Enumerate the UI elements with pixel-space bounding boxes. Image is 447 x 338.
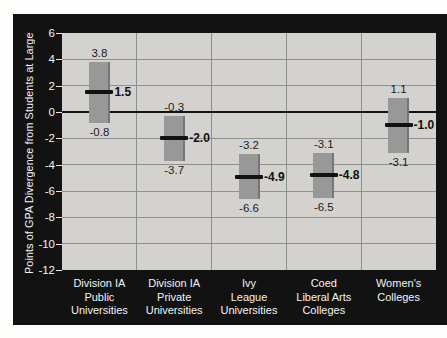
mean-marker <box>160 136 188 140</box>
mean-value-label: 1.5 <box>114 86 131 99</box>
low-value-label: -0.8 <box>77 126 121 139</box>
y-tick-mark <box>56 59 62 60</box>
vertical-gridline <box>361 33 362 270</box>
mean-value-label: -4.9 <box>264 171 285 184</box>
y-tick-mark <box>56 270 62 271</box>
high-value-label: 3.8 <box>77 47 121 60</box>
y-tick-label: -8 <box>25 211 55 223</box>
mean-marker <box>85 90 113 94</box>
vertical-gridline <box>136 33 137 270</box>
category-label: Coed Liberal Arts Colleges <box>284 277 364 318</box>
high-value-label: 1.1 <box>377 83 421 96</box>
low-value-label: -3.7 <box>152 164 196 177</box>
y-tick-label: 6 <box>25 27 55 39</box>
y-tick-label: 4 <box>25 53 55 65</box>
high-value-label: -3.1 <box>302 138 346 151</box>
low-value-label: -3.1 <box>377 156 421 169</box>
y-tick-mark <box>56 217 62 218</box>
high-value-label: -3.2 <box>227 139 271 152</box>
vertical-gridline <box>286 33 287 270</box>
gpa-divergence-chart: Points of GPA Divergence from Students a… <box>13 14 447 325</box>
y-tick-mark <box>56 165 62 166</box>
mean-marker <box>235 175 263 179</box>
y-tick-label: -2 <box>25 132 55 144</box>
y-tick-label: 0 <box>25 106 55 118</box>
y-tick-label: -6 <box>25 185 55 197</box>
zero-baseline <box>62 111 436 113</box>
y-tick-mark <box>56 244 62 245</box>
category-label: Women's Colleges <box>359 277 439 304</box>
category-label: Division IA Public Universities <box>59 277 139 318</box>
vertical-gridline <box>211 33 212 270</box>
y-tick-mark <box>56 138 62 139</box>
high-value-label: -0.3 <box>152 101 196 114</box>
mean-value-label: -1.0 <box>414 119 435 132</box>
category-label: Division IA Private Universities <box>134 277 214 318</box>
y-tick-label: -12 <box>25 264 55 276</box>
mean-value-label: -4.8 <box>339 169 360 182</box>
mean-marker <box>310 173 338 177</box>
horizontal-gridline <box>62 217 436 218</box>
y-tick-mark <box>56 112 62 113</box>
mean-marker <box>385 123 413 127</box>
category-label: Ivy League Universities <box>209 277 289 318</box>
y-tick-label: 2 <box>25 80 55 92</box>
horizontal-gridline <box>62 243 436 244</box>
y-tick-label: -10 <box>25 238 55 250</box>
y-tick-mark <box>56 191 62 192</box>
mean-value-label: -2.0 <box>189 132 210 145</box>
y-tick-label: -4 <box>25 159 55 171</box>
plot-area: 3.8-0.81.5-0.3-3.7-2.0-3.2-6.6-4.9-3.1-6… <box>62 33 436 270</box>
y-tick-mark <box>56 33 62 34</box>
y-tick-mark <box>56 86 62 87</box>
low-value-label: -6.6 <box>227 202 271 215</box>
low-value-label: -6.5 <box>302 201 346 214</box>
page: { "chart": { "y_axis_title": "Points of … <box>0 0 447 338</box>
